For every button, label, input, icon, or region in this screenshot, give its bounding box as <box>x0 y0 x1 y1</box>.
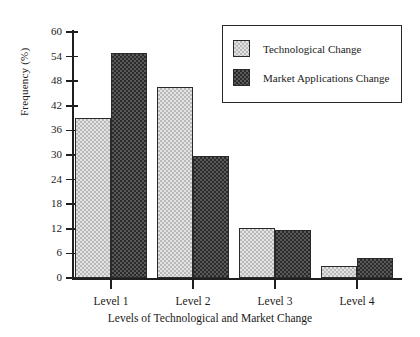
y-axis-tick-label: 36 <box>22 124 62 135</box>
y-axis-tick-label: 42 <box>22 100 62 111</box>
bar <box>111 53 147 279</box>
bar <box>193 156 229 278</box>
bar <box>357 258 393 278</box>
y-axis-tick-label: 54 <box>22 51 62 62</box>
y-axis-tick-label: 18 <box>22 198 62 209</box>
y-axis-tick-label: 0 <box>22 272 62 283</box>
x-axis-title: Levels of Technological and Market Chang… <box>0 312 420 324</box>
x-axis-tick-label: Level 4 <box>312 295 402 307</box>
x-axis-tick-label: Level 1 <box>66 295 156 307</box>
bar <box>239 228 275 278</box>
y-axis-tick-label: 60 <box>22 26 62 37</box>
y-axis-tick-label: 48 <box>22 75 62 86</box>
bar <box>275 230 311 278</box>
bar-chart: Frequency (%) 06121824303642485460 Level… <box>0 0 420 337</box>
y-axis-tick-label: 6 <box>22 247 62 258</box>
x-axis-tick-mark <box>274 278 276 289</box>
x-axis-tick-mark <box>356 278 358 289</box>
bar <box>321 266 357 278</box>
legend-label-market-applications-change: Market Applications Change <box>263 72 389 84</box>
x-axis-line <box>72 278 402 280</box>
x-axis-tick-mark <box>110 278 112 289</box>
x-axis-tick-mark <box>192 278 194 289</box>
legend-label-technological-change: Technological Change <box>263 43 362 55</box>
y-axis-tick-label: 12 <box>22 223 62 234</box>
y-axis-tick-label: 30 <box>22 149 62 160</box>
legend-item-technological-change: Technological Change <box>233 40 362 57</box>
y-axis-tick-label: 24 <box>22 174 62 185</box>
legend-swatch-icon-market-applications-change <box>233 69 250 86</box>
x-axis-tick-label: Level 3 <box>230 295 320 307</box>
bar <box>75 118 111 278</box>
x-axis-tick-label: Level 2 <box>148 295 238 307</box>
bar <box>157 87 193 278</box>
legend-item-market-applications-change: Market Applications Change <box>233 69 389 86</box>
legend: Technological Change Market Applications… <box>222 25 402 103</box>
legend-swatch-icon-technological-change <box>233 40 250 57</box>
